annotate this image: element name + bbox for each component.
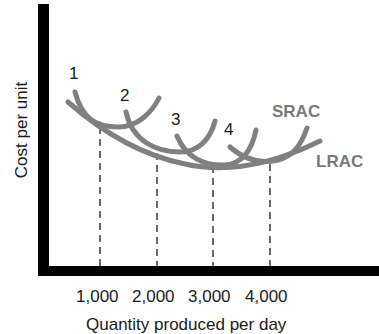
y-axis-title: Cost per unit <box>12 82 32 178</box>
x-tick-1000: 1,000 <box>76 287 119 307</box>
x-tick-4000: 4,000 <box>245 287 288 307</box>
srac-4-curve <box>230 128 307 161</box>
srac-1-curve <box>75 92 159 127</box>
curve-label-4: 4 <box>224 120 233 140</box>
x-axis-title: Quantity produced per day <box>86 315 286 334</box>
lrac-label: LRAC <box>316 152 363 172</box>
srac-3-curve <box>177 130 256 165</box>
x-tick-2000: 2,000 <box>132 287 175 307</box>
curve-label-2: 2 <box>120 86 129 106</box>
y-axis <box>38 4 49 276</box>
curve-label-3: 3 <box>171 110 180 130</box>
x-axis <box>38 266 379 276</box>
curve-label-1: 1 <box>69 64 78 84</box>
srac-label: SRAC <box>272 102 320 122</box>
x-tick-3000: 3,000 <box>188 287 231 307</box>
